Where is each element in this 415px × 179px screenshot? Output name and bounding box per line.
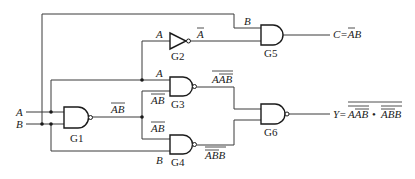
gate-g1-nand: G1	[64, 107, 93, 144]
g2-output-label: A	[196, 28, 204, 40]
wire-g4-to-g6	[197, 120, 261, 145]
g4-output-label: ABB	[204, 149, 225, 161]
output-y-term2: ABB	[380, 108, 401, 120]
wire-g3-to-g6	[197, 87, 261, 109]
junction-dot	[140, 78, 144, 82]
input-label-a: A	[15, 106, 23, 118]
g3-output-label: AAB	[211, 73, 232, 85]
gate-label-g1: G1	[70, 132, 83, 144]
logic-circuit-diagram: G1 G2 G3 G4 G5 G6 A B AB A A	[0, 0, 415, 179]
output-c-label: C=AB	[333, 28, 361, 40]
g4-input-ab-label: AB	[150, 122, 165, 134]
junction-dot	[49, 110, 53, 114]
junction-dot	[140, 115, 144, 119]
input-label-b: B	[16, 118, 23, 130]
gate-g2-not: G2	[170, 33, 191, 62]
g3-input-ab-label: AB	[150, 94, 165, 106]
gate-label-g5: G5	[264, 47, 278, 59]
gate-g3-nand: G3	[170, 77, 197, 110]
output-y-prefix: Y=	[333, 108, 347, 120]
g5-input-b-label: B	[244, 15, 251, 27]
gate-g5-and: G5	[261, 25, 283, 59]
gate-label-g4: G4	[171, 156, 185, 168]
g3-input-a-label: A	[155, 67, 163, 79]
wire-b-top-bus	[42, 14, 261, 28]
gate-label-g6: G6	[264, 126, 278, 138]
gate-label-g2: G2	[171, 50, 184, 62]
junction-dot	[40, 122, 44, 126]
gate-g4-nand: G4	[170, 135, 197, 168]
output-y-dot: •	[372, 108, 376, 120]
g1-output-label: AB	[110, 103, 125, 115]
gate-label-g3: G3	[171, 98, 185, 110]
g2-input-label: A	[155, 28, 163, 40]
g4-input-b-label: B	[156, 154, 163, 166]
gate-g6-nand: G6	[261, 104, 289, 138]
output-y-term1: AAB	[347, 108, 368, 120]
junction-dot	[49, 122, 53, 126]
